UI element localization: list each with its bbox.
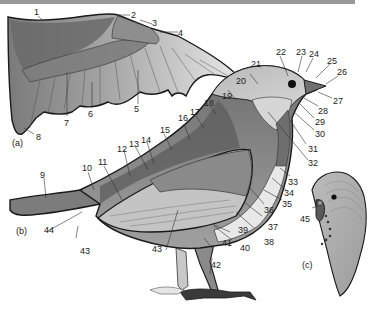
callout-31: 31 [308,144,318,154]
callout-13: 13 [129,139,139,149]
panel-label-c: (c) [302,260,313,270]
callout-44: 44 [44,225,54,235]
budgie-head [312,172,366,296]
callout-14: 14 [141,135,151,145]
callout-4: 4 [178,28,183,38]
callout-22: 22 [276,47,286,57]
beak [304,80,326,94]
feet [180,289,256,300]
back-foot [150,287,184,294]
callout-32: 32 [308,158,318,168]
callout-34: 34 [284,188,294,198]
callout-2: 2 [131,10,136,20]
callout-11: 11 [98,157,107,167]
callout-25: 25 [327,56,337,66]
callout-9: 9 [40,170,45,180]
budgie-eye [331,194,336,199]
callout-39: 39 [238,225,248,235]
callout-8: 8 [36,132,41,142]
callout-27: 27 [333,96,343,106]
callout-41: 41 [222,238,232,248]
callout-21: 21 [251,59,261,69]
callout-19: 19 [222,91,232,101]
callout-7: 7 [64,118,69,128]
callout-17: 17 [190,107,200,117]
callout-45: 45 [300,214,310,224]
eye [288,80,296,88]
callout-12: 12 [117,144,127,154]
callout-16: 16 [178,113,188,123]
callout-42: 42 [211,260,221,270]
top-border-bar [0,0,355,4]
budgie-head-panel: 45 (c) [300,172,366,296]
callout-26: 26 [337,67,347,77]
callout-36: 36 [264,205,274,215]
callout-6: 6 [88,109,93,119]
callout-40: 40 [240,243,250,253]
budgie-cere [318,201,323,206]
bird-anatomy-diagram: 1 2 3 4 5 6 7 8 (a) [0,0,381,309]
callout-3: 3 [152,18,157,28]
callout-29: 29 [315,117,325,127]
callout-37: 37 [268,222,278,232]
callout-30: 30 [315,129,325,139]
callout-43-leg: 43 [152,244,162,254]
callout-10: 10 [82,163,92,173]
callout-38: 38 [264,237,274,247]
callout-24: 24 [309,49,319,59]
callout-1: 1 [34,7,39,17]
callout-23: 23 [296,47,306,57]
callout-33: 33 [288,177,298,187]
panel-label-a: (a) [12,138,23,148]
callout-35: 35 [282,199,292,209]
callout-5: 5 [134,104,139,114]
callout-20: 20 [236,76,246,86]
callout-43-tail: 43 [80,246,90,256]
callout-28: 28 [318,106,328,116]
callout-18: 18 [204,98,214,108]
callout-15: 15 [160,125,170,135]
panel-label-b: (b) [16,226,27,236]
leg-back [176,248,188,290]
diagram-canvas: 1 2 3 4 5 6 7 8 (a) [0,0,381,309]
